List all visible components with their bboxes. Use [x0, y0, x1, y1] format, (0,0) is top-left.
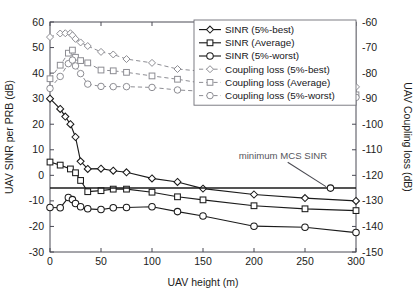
- series-marker: [110, 83, 117, 90]
- legend-label: SINR (5%-best): [225, 24, 294, 35]
- series-marker: [302, 206, 308, 212]
- y-tick-label: -20: [29, 220, 44, 232]
- y-tick-label: -30: [29, 246, 44, 258]
- series-marker: [124, 186, 130, 192]
- legend-marker: [207, 40, 213, 46]
- y2-tick-label: -60: [362, 16, 377, 28]
- y2-tick-label: -100: [362, 118, 383, 130]
- legend-label: Coupling loss (5%-best): [225, 64, 330, 75]
- series-marker: [77, 70, 84, 77]
- uav-sinr-coupling-loss-chart: 050100150200250300 -30-20-10010203040506…: [0, 0, 415, 299]
- series-marker: [98, 83, 105, 90]
- series-marker: [72, 63, 79, 70]
- series-marker: [70, 47, 76, 53]
- series-marker: [149, 73, 155, 79]
- legend-label: SINR (Average): [225, 37, 295, 48]
- y-tick-label: 20: [32, 118, 44, 130]
- series-marker: [77, 204, 84, 211]
- chart-legend[interactable]: SINR (5%-best)SINR (Average)SINR (5%-wor…: [194, 20, 356, 105]
- series-marker: [175, 194, 181, 200]
- y-tick-label: 60: [32, 16, 44, 28]
- annotation-label: minimum MCS SINR: [239, 150, 328, 161]
- y2-tick-label: -80: [362, 67, 377, 79]
- series-marker: [124, 69, 130, 75]
- series-marker: [149, 84, 156, 91]
- series-marker: [85, 189, 91, 195]
- y-tick-label: 40: [32, 67, 44, 79]
- annotation-target-marker: [327, 185, 334, 192]
- series-marker: [47, 159, 53, 165]
- series-marker: [47, 204, 54, 211]
- series-marker: [123, 204, 130, 211]
- y-tick-label: 30: [32, 92, 44, 104]
- series-marker: [200, 197, 206, 203]
- series-marker: [251, 223, 258, 230]
- x-tick-label: 100: [143, 255, 161, 267]
- series-marker: [110, 68, 116, 74]
- series-marker: [84, 206, 91, 213]
- figure-container: 050100150200250300 -30-20-10010203040506…: [0, 0, 415, 299]
- y2-tick-label: -140: [362, 220, 383, 232]
- x-tick-label: 200: [245, 255, 263, 267]
- series-marker: [174, 87, 181, 94]
- series-marker: [302, 224, 309, 231]
- series-marker: [78, 58, 84, 64]
- x-tick-label: 50: [95, 255, 107, 267]
- x-axis-title: UAV height (m): [168, 276, 239, 288]
- x-tick-label: 150: [194, 255, 212, 267]
- x-tick-label: 0: [47, 255, 53, 267]
- series-marker: [98, 206, 105, 213]
- legend-label: Coupling loss (5%-worst): [225, 90, 335, 101]
- y-tick-label: 50: [32, 41, 44, 53]
- series-marker: [123, 83, 130, 90]
- y2-tick-label: -150: [362, 246, 383, 258]
- series-marker: [175, 76, 181, 82]
- series-marker: [73, 170, 79, 176]
- series-marker: [57, 205, 64, 212]
- series-marker: [110, 186, 116, 192]
- legend-marker: [207, 53, 214, 60]
- y2-tick-label: -110: [362, 143, 382, 155]
- series-marker: [98, 67, 104, 73]
- series-marker: [353, 229, 360, 236]
- series-marker: [47, 76, 53, 82]
- series-marker: [149, 204, 156, 211]
- series-marker: [85, 60, 91, 66]
- series-marker: [174, 208, 181, 215]
- series-marker: [78, 178, 84, 184]
- y-tick-label: 10: [32, 143, 44, 155]
- legend-label: SINR (5%-worst): [225, 50, 299, 61]
- series-marker: [84, 81, 91, 88]
- series-marker: [149, 189, 155, 195]
- series-marker: [110, 205, 117, 212]
- series-marker: [57, 73, 64, 80]
- series-marker: [353, 208, 359, 214]
- y2-tick-label: -70: [362, 41, 377, 53]
- y-tick-label: -10: [29, 194, 44, 206]
- legend-label: Coupling loss (Average): [225, 77, 330, 88]
- y-axis-right-title: UAV Coupling loss (dB): [402, 82, 414, 192]
- y-axis-left-title: UAV SINR per PRB (dB): [3, 80, 15, 194]
- series-marker: [47, 85, 54, 92]
- series-marker: [200, 213, 207, 220]
- series-marker: [251, 203, 257, 209]
- legend-marker: [207, 92, 214, 99]
- x-tick-label: 250: [296, 255, 314, 267]
- legend-marker: [207, 80, 213, 86]
- y2-tick-label: -90: [362, 92, 377, 104]
- y-tick-label: 0: [38, 169, 44, 181]
- y2-tick-label: -130: [362, 194, 383, 206]
- series-marker: [57, 62, 63, 68]
- series-marker: [57, 162, 63, 168]
- y2-tick-label: -120: [362, 169, 383, 181]
